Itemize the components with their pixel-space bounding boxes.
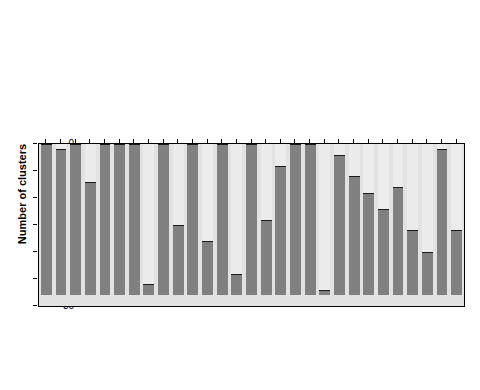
bar [393,187,404,295]
bar-column [334,144,345,306]
bar-remainder [319,144,330,290]
bar-column [114,144,125,306]
x-axis-category-labels: publishesshares ideas, helpfuluses netwo… [0,0,480,143]
bar-remainder [275,144,286,166]
bar-column [451,144,462,306]
bar [143,284,154,295]
bar [41,144,52,295]
bar [334,155,345,295]
bar [114,144,125,295]
bar [275,166,286,296]
bar-column [349,144,360,306]
bar [217,144,228,295]
bar [363,193,374,296]
bar [261,220,272,296]
bar [85,182,96,295]
y-tick-mark [33,278,37,279]
plot-area [38,143,465,307]
bar-column [422,144,433,306]
bar-column [261,144,272,306]
bar-remainder [143,144,154,284]
bar-column [393,144,404,306]
bar-column [100,144,111,306]
bar-column [85,144,96,306]
bar [378,209,389,295]
bar [407,230,418,295]
bar [173,225,184,295]
chart-figure: Number of clusters 051015202530 publishe… [0,0,480,390]
bar-column [217,144,228,306]
bar-remainder [378,144,389,209]
bar [451,230,462,295]
bar-column [143,144,154,306]
bar-remainder [173,144,184,225]
bar-column [290,144,301,306]
bar [231,274,242,296]
bar-column [246,144,257,306]
bar-remainder [231,144,242,274]
bar [246,144,257,295]
y-tick-mark [33,170,37,171]
bar-remainder [349,144,360,176]
y-axis-title: Number of clusters [16,124,28,264]
bar-remainder [261,144,272,220]
bar [319,290,330,295]
bar [70,144,81,295]
bar [437,149,448,295]
bar [305,144,316,295]
bar-column [187,144,198,306]
bar [349,176,360,295]
y-tick-mark [33,143,37,144]
y-tick-mark [33,305,37,306]
bar-column [56,144,67,306]
bar-remainder [407,144,418,230]
bar [129,144,140,295]
y-tick-mark [33,224,37,225]
bar [187,144,198,295]
bar-column [41,144,52,306]
bar-column [129,144,140,306]
bar-column [202,144,213,306]
bar [158,144,169,295]
bar-remainder [202,144,213,241]
bar-remainder [334,144,345,155]
bar [202,241,213,295]
bar-remainder [85,144,96,182]
bar-remainder [393,144,404,187]
bars-container [39,144,464,306]
bar-column [378,144,389,306]
bar-column [363,144,374,306]
bar [422,252,433,295]
bar-column [70,144,81,306]
bar-column [173,144,184,306]
bar-column [305,144,316,306]
bar-remainder [363,144,374,193]
bar-column [158,144,169,306]
bar-column [231,144,242,306]
y-tick-mark [33,197,37,198]
bar-remainder [451,144,462,230]
bar [100,144,111,295]
bar-remainder [422,144,433,252]
bar [56,149,67,295]
y-tick-mark [33,251,37,252]
bar [290,144,301,295]
bar-column [407,144,418,306]
bar-column [275,144,286,306]
bar-column [437,144,448,306]
bar-column [319,144,330,306]
